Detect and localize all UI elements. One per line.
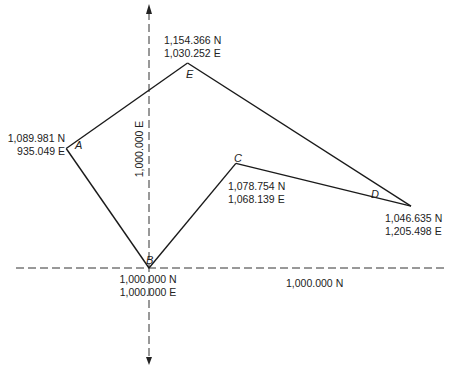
point-label-a: A (74, 139, 82, 151)
northing-a: 1,089.981 N (8, 132, 65, 144)
traverse-segment-de (188, 63, 411, 206)
northing-e: 1,154.366 N (164, 34, 221, 46)
coords-e: 1,154.366 N 1,030.252 E (164, 34, 221, 59)
northing-d: 1,046.635 N (385, 212, 442, 224)
coords-a: 1,089.981 N 935.049 E (8, 132, 65, 157)
coords-d: 1,046.635 N 1,205.498 E (385, 212, 442, 237)
point-label-d: D (371, 188, 379, 200)
easting-b: 1,000.000 E (120, 286, 177, 298)
axis-arrow-up-icon (146, 4, 152, 14)
easting-axis-label: 1,000.000 E (133, 121, 145, 178)
easting-c: 1,068.139 E (228, 193, 285, 205)
easting-a: 935.049 E (17, 145, 65, 157)
traverse-segment-bc (149, 163, 236, 268)
traverse-lines (66, 63, 411, 268)
coords-b: 1,000.000 N 1,000.000 E (119, 273, 176, 298)
traverse-segment-ea (66, 63, 187, 149)
traverse-diagram: 1,000.000 E 1,000.000 N A B C D E 1,089.… (0, 0, 452, 375)
point-label-c: C (234, 152, 242, 164)
easting-e: 1,030.252 E (164, 47, 221, 59)
axis-arrow-down-icon (146, 357, 152, 365)
northing-b: 1,000.000 N (119, 273, 176, 285)
coords-c: 1,078.754 N 1,068.139 E (228, 180, 285, 205)
point-label-b: B (146, 254, 153, 266)
easting-d: 1,205.498 E (385, 225, 442, 237)
point-label-e: E (186, 68, 194, 80)
northing-c: 1,078.754 N (228, 180, 285, 192)
northing-axis-label: 1,000.000 N (286, 277, 343, 289)
